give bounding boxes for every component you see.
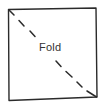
fold-diagram: Fold [0, 0, 103, 107]
fold-label: Fold [39, 41, 61, 54]
square-outline [9, 8, 98, 101]
